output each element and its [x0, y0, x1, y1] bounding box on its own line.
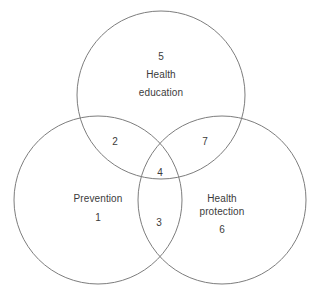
label-intersection-education-protection: 7	[185, 135, 225, 148]
label-health-education: 5 Health education	[111, 50, 211, 99]
region-number-health-protection: 6	[172, 223, 272, 236]
set-name-health-protection-line2: protection	[172, 205, 272, 218]
region-number-education-protection: 7	[185, 135, 225, 148]
set-name-health-education-line2: education	[111, 86, 211, 99]
venn-diagram-figure: 5 Health education Prevention 1 Health p…	[0, 0, 315, 298]
set-name-health-education-line1: Health	[111, 68, 211, 81]
label-intersection-prevention-protection: 3	[139, 216, 179, 229]
venn-circles-group	[0, 0, 315, 298]
region-number-health-education: 5	[111, 50, 211, 63]
label-health-protection: Health protection 6	[172, 192, 272, 236]
label-intersection-education-prevention: 2	[95, 135, 135, 148]
region-number-education-prevention: 2	[95, 135, 135, 148]
set-name-prevention: Prevention	[38, 192, 158, 205]
region-number-all-three: 4	[140, 166, 180, 179]
label-intersection-all-three: 4	[140, 166, 180, 179]
region-number-prevention-protection: 3	[139, 216, 179, 229]
set-name-health-protection-line1: Health	[172, 192, 272, 205]
